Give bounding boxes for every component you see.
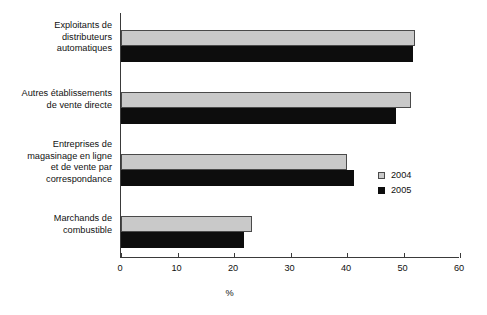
- category-label-line: Entreprises de: [27, 139, 112, 151]
- category-label-line: Marchands de: [54, 213, 112, 225]
- x-axis-tick: [460, 253, 461, 258]
- x-axis-tick-label: 20: [213, 263, 253, 273]
- x-axis-tick-label: 10: [157, 263, 197, 273]
- legend-item-2005[interactable]: 2005: [378, 183, 411, 198]
- category-label-exploitants: Exploitants de distributeurs automatique…: [54, 20, 112, 55]
- x-axis-tick: [178, 253, 179, 258]
- category-label-line: Autres établissements: [22, 88, 112, 100]
- legend-swatch-icon: [378, 187, 385, 194]
- x-axis-tick: [291, 253, 292, 258]
- category-label-entreprises-magasinage: Entreprises de magasinage en ligne et de…: [27, 139, 112, 185]
- category-label-marchands-combustible: Marchands de combustible: [54, 213, 112, 236]
- x-axis-tick-label: 50: [383, 263, 423, 273]
- category-label-line: magasinage en ligne: [27, 151, 112, 163]
- bar-2005-cat2: [121, 170, 354, 186]
- x-axis-tick-label: 30: [270, 263, 310, 273]
- x-axis-tick: [347, 253, 348, 258]
- bar-2005-cat3: [121, 232, 244, 248]
- category-label-autres-etablissements: Autres établissements de vente directe: [22, 88, 112, 111]
- category-label-line: et de vente par: [27, 162, 112, 174]
- category-label-line: automatiques: [54, 43, 112, 55]
- x-axis-tick: [121, 253, 122, 258]
- x-axis-tick-label: 40: [326, 263, 366, 273]
- x-axis-title: %: [0, 288, 487, 298]
- plot-area: [120, 13, 459, 258]
- legend-label: 2005: [391, 186, 411, 195]
- category-label-line: combustible: [54, 225, 112, 237]
- category-label-line: distributeurs: [54, 32, 112, 44]
- bar-chart: Exploitants de distributeurs automatique…: [0, 0, 487, 315]
- bar-2005-cat0: [121, 46, 413, 62]
- legend-label: 2004: [391, 171, 411, 180]
- bar-2004-cat2: [121, 154, 347, 170]
- category-label-line: correspondance: [27, 174, 112, 186]
- legend-item-2004[interactable]: 2004: [378, 168, 411, 183]
- x-axis-title-text: %: [225, 288, 233, 298]
- category-label-line: de vente directe: [22, 100, 112, 112]
- x-axis-tick: [404, 253, 405, 258]
- bar-2005-cat1: [121, 108, 396, 124]
- bar-2004-cat1: [121, 92, 411, 108]
- legend-swatch-icon: [378, 172, 385, 179]
- x-axis-tick-label: 60: [439, 263, 479, 273]
- category-label-line: Exploitants de: [54, 20, 112, 32]
- chart-legend: 2004 2005: [378, 168, 411, 198]
- x-axis-tick-label: 0: [100, 263, 140, 273]
- bar-2004-cat0: [121, 30, 415, 46]
- x-axis-tick: [234, 253, 235, 258]
- bar-2004-cat3: [121, 216, 252, 232]
